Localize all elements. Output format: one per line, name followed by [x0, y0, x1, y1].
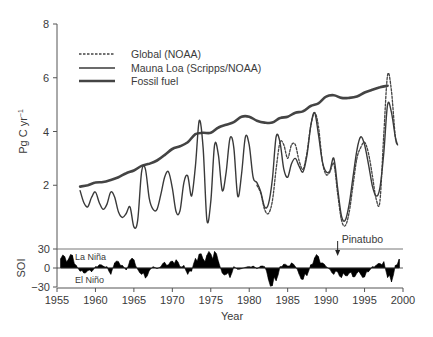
main-y-tick-label: 2 — [43, 179, 49, 191]
soi-bar — [214, 252, 215, 268]
soi-bar — [380, 264, 381, 268]
x-tick-label: 1995 — [352, 294, 376, 306]
soi-bar — [360, 268, 361, 274]
legend-label: Global (NOAA) — [131, 48, 201, 60]
soi-bar — [210, 254, 211, 268]
soi-bar — [133, 260, 134, 268]
la-nina-label: La Niña — [75, 252, 106, 262]
soi-bar — [345, 268, 346, 276]
soi-bar — [356, 268, 357, 273]
soi-y-tick-label: −30 — [31, 281, 50, 293]
soi-bar — [187, 268, 188, 274]
x-tick-label: 1985 — [275, 294, 299, 306]
soi-bar — [118, 262, 119, 268]
soi-bar — [368, 268, 369, 272]
soi-bar — [114, 263, 115, 268]
soi-bar — [383, 262, 384, 268]
main-y-tick-label: 8 — [43, 18, 49, 30]
x-tick-label: 1980 — [237, 294, 261, 306]
soi-bar — [207, 255, 208, 268]
soi-bar — [364, 268, 365, 277]
x-tick-label: 1970 — [160, 294, 184, 306]
main-y-axis-label: Pg C yr−1 — [17, 109, 29, 154]
soi-bar — [145, 268, 146, 278]
x-tick-label: 1965 — [122, 294, 146, 306]
soi-bar — [195, 259, 196, 269]
soi-bar — [176, 260, 177, 268]
legend-item: Global (NOAA) — [79, 48, 201, 60]
main-y-tick-label: 4 — [43, 126, 49, 138]
soi-bar — [341, 268, 342, 278]
soi-bar — [387, 268, 388, 278]
main-y-tick-label: 6 — [43, 72, 49, 84]
soi-bar — [130, 260, 131, 268]
main-panel: 2468 Pg C yr−1 Global (NOAA)Mauna Loa (S… — [17, 18, 398, 249]
soi-bar — [91, 268, 92, 272]
soi-bar — [203, 259, 204, 268]
x-tick-label: 1960 — [83, 294, 107, 306]
soi-panel: 300−30 SOI La Niña El Niño Pinatubo 1955… — [15, 233, 415, 322]
soi-bar — [141, 268, 142, 274]
soi-bar — [68, 259, 69, 268]
soi-bar — [272, 268, 273, 286]
soi-bar — [191, 268, 192, 271]
soi-bar — [60, 259, 61, 269]
main-series — [80, 73, 398, 228]
soi-bar — [199, 254, 200, 268]
legend-item: Mauna Loa (Scripps/NOAA) — [79, 62, 261, 74]
soi-bar — [276, 268, 277, 281]
legend-item: Fossil fuel — [79, 75, 178, 87]
soi-bar — [218, 262, 219, 268]
soi-series — [60, 251, 399, 286]
legend-label: Mauna Loa (Scripps/NOAA) — [131, 62, 261, 74]
soi-bar — [391, 268, 392, 282]
fossil-fuel-line — [80, 86, 388, 187]
legend: Global (NOAA)Mauna Loa (Scripps/NOAA)Fos… — [79, 48, 261, 87]
soi-bar — [168, 265, 169, 268]
soi-bar — [318, 257, 319, 268]
soi-bar — [291, 263, 292, 268]
legend-label: Fossil fuel — [131, 75, 178, 87]
soi-y-tick-label: 30 — [38, 243, 50, 255]
soi-bar — [337, 268, 338, 272]
soi-bar — [268, 268, 269, 279]
x-ticks: 1955196019651970197519801985199019952000 — [45, 288, 415, 306]
soi-bar — [349, 268, 350, 273]
x-tick-label: 1990 — [314, 294, 338, 306]
soi-y-ticks: 300−30 — [31, 243, 57, 293]
soi-bar — [399, 259, 400, 268]
soi-y-tick-label: 0 — [44, 262, 50, 274]
x-tick-label: 2000 — [391, 294, 415, 306]
soi-bar — [164, 262, 165, 268]
x-axis-label: Year — [221, 310, 244, 322]
soi-bar — [303, 268, 304, 279]
soi-y-axis-label: SOI — [15, 259, 27, 278]
soi-bar — [353, 268, 354, 277]
soi-bar — [226, 268, 227, 274]
soi-bar — [322, 263, 323, 268]
soi-bar — [64, 257, 65, 268]
soi-bar — [80, 268, 81, 271]
co2-growth-chart: 2468 Pg C yr−1 Global (NOAA)Mauna Loa (S… — [0, 0, 433, 337]
x-tick-label: 1955 — [45, 294, 69, 306]
soi-bar — [99, 265, 100, 268]
main-y-ticks: 2468 — [43, 18, 57, 191]
soi-bar — [72, 255, 73, 268]
soi-bar — [230, 268, 231, 278]
pinatubo-label: Pinatubo — [342, 233, 384, 245]
soi-bar — [172, 261, 173, 268]
x-tick-label: 1975 — [199, 294, 223, 306]
soi-bar — [314, 258, 315, 268]
pinatubo-arrow-head — [335, 250, 340, 256]
mauna-loa-scripps-noaa-line — [80, 102, 398, 228]
el-nino-label: El Niño — [75, 275, 104, 285]
soi-bar — [222, 268, 223, 273]
soi-bar — [310, 265, 311, 268]
soi-bar — [333, 268, 334, 274]
soi-bar — [299, 268, 300, 274]
soi-bar — [283, 264, 284, 268]
soi-bar — [110, 268, 111, 274]
soi-bar — [306, 268, 307, 276]
soi-bar — [84, 268, 85, 273]
pinatubo-annotation: Pinatubo — [335, 233, 383, 256]
